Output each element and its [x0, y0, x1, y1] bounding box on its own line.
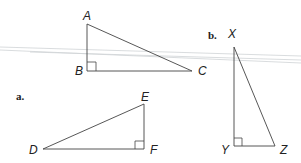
triangle-def: E D F [29, 90, 158, 157]
vertex-label-a: A [82, 9, 91, 23]
triangles-diagram: A B C a. b. E D F X Y Z [0, 0, 301, 163]
right-angle-marker-f [135, 141, 144, 149]
triangle-xyz: X Y Z [221, 27, 288, 157]
right-angle-marker-b [87, 62, 96, 71]
vertex-label-e: E [141, 90, 150, 104]
part-label-b: b. [208, 29, 217, 41]
vertex-label-y: Y [221, 143, 230, 157]
vertex-label-b: B [75, 64, 83, 78]
vertex-label-f: F [150, 143, 158, 157]
scan-artifact-lines [0, 47, 301, 63]
vertex-label-d: D [29, 143, 38, 157]
vertex-label-z: Z [279, 143, 288, 157]
triangle-abc: A B C [75, 9, 207, 78]
vertex-label-x: X [227, 27, 237, 41]
part-label-a: a. [16, 90, 25, 102]
right-angle-marker-y [234, 138, 242, 146]
vertex-label-c: C [198, 64, 207, 78]
